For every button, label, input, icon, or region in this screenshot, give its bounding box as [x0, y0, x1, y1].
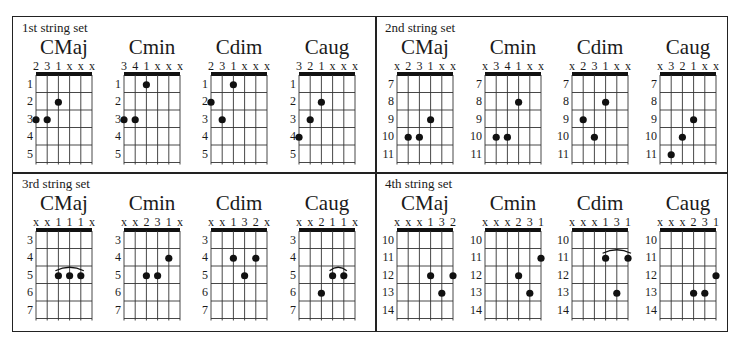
- chord-diagram-caug: Caugxx211x34567: [279, 191, 359, 331]
- nut-bar: [660, 72, 716, 76]
- finger-dot: [701, 290, 708, 297]
- finger-dot: [515, 272, 522, 279]
- chord-diagram-caug: Caugx321xx7891011: [640, 35, 720, 175]
- finger-dot: [679, 134, 686, 141]
- fretboard-grid: [479, 225, 547, 325]
- nut-bar: [299, 72, 355, 76]
- finger-dot: [449, 272, 456, 279]
- finger-dot: [438, 290, 445, 297]
- finger-dot: [219, 116, 226, 123]
- fretboard-grid: [654, 225, 722, 325]
- finger-dot: [230, 255, 237, 262]
- chord-diagram-cmaj: CMajxxx1321011121314: [377, 191, 457, 331]
- finger-dot: [207, 99, 214, 106]
- nut-bar: [124, 72, 180, 76]
- nut-bar: [36, 72, 92, 76]
- chord-diagram-cdim: Cdim231xxx12345: [191, 35, 271, 175]
- chord-diagram-cmin: Cmin341xxx12345: [104, 35, 184, 175]
- finger-dot: [602, 255, 609, 262]
- finger-dot: [591, 134, 598, 141]
- finger-dot: [526, 290, 533, 297]
- chord-name: Caug: [299, 191, 355, 216]
- finger-dot: [143, 81, 150, 88]
- finger-dot: [624, 255, 631, 262]
- chord-name: Cdim: [572, 191, 628, 216]
- nut-bar: [572, 72, 628, 76]
- finger-dot: [307, 116, 314, 123]
- nut-bar: [36, 228, 92, 232]
- fretboard-grid: [566, 69, 634, 169]
- panel-title: 4th string set: [385, 176, 452, 192]
- chord-diagram-cmin: Cminxx231x34567: [104, 191, 184, 331]
- chord-diagram-cmaj: CMajx231xx7891011: [377, 35, 457, 175]
- fretboard-grid: [293, 69, 361, 169]
- finger-dot: [154, 272, 161, 279]
- chord-name: Caug: [660, 191, 716, 216]
- chord-diagram-cmaj: CMajxx111x34567: [16, 191, 96, 331]
- finger-dot: [318, 99, 325, 106]
- fretboard-grid: [479, 69, 547, 169]
- chord-name: Cmin: [124, 191, 180, 216]
- chord-name: CMaj: [397, 35, 453, 60]
- chord-name: CMaj: [36, 35, 92, 60]
- finger-dot: [580, 116, 587, 123]
- finger-dot: [427, 272, 434, 279]
- fretboard-grid: [391, 69, 459, 169]
- nut-bar: [485, 72, 541, 76]
- finger-dot: [295, 134, 302, 141]
- chord-diagram-cmin: Cminxxx2311011121314: [465, 191, 545, 331]
- chord-name: Cmin: [124, 35, 180, 60]
- finger-dot: [416, 134, 423, 141]
- panel-title: 3rd string set: [22, 176, 90, 192]
- nut-bar: [397, 228, 453, 232]
- finger-dot: [668, 151, 675, 158]
- finger-dot: [318, 290, 325, 297]
- nut-bar: [660, 228, 716, 232]
- finger-dot: [143, 272, 150, 279]
- finger-dot: [340, 272, 347, 279]
- finger-dot: [690, 290, 697, 297]
- chord-name: Cdim: [211, 191, 267, 216]
- panel-title: 1st string set: [22, 20, 88, 36]
- finger-dot: [602, 99, 609, 106]
- fretboard-grid: [566, 225, 634, 325]
- finger-dot: [504, 134, 511, 141]
- chord-diagram-cmaj: CMaj231xxx12345: [16, 35, 96, 175]
- finger-dot: [613, 290, 620, 297]
- nut-bar: [397, 72, 453, 76]
- fretboard-grid: [654, 69, 722, 169]
- finger-dot: [165, 255, 172, 262]
- nut-bar: [485, 228, 541, 232]
- fretboard-grid: [118, 225, 186, 325]
- finger-dot: [252, 255, 259, 262]
- finger-dot: [515, 99, 522, 106]
- finger-dot: [230, 81, 237, 88]
- finger-dot: [66, 272, 73, 279]
- fretboard-grid: [205, 69, 273, 169]
- finger-dot: [405, 134, 412, 141]
- chord-name: Cdim: [572, 35, 628, 60]
- chord-name: CMaj: [397, 191, 453, 216]
- fretboard-grid: [293, 225, 361, 325]
- finger-dot: [537, 255, 544, 262]
- fretboard-grid: [205, 225, 273, 325]
- finger-dot: [55, 272, 62, 279]
- finger-dot: [690, 116, 697, 123]
- chord-name: Cmin: [485, 191, 541, 216]
- chord-name: Caug: [660, 35, 716, 60]
- fretboard-grid: [118, 69, 186, 169]
- nut-bar: [211, 72, 267, 76]
- finger-dot: [712, 272, 719, 279]
- finger-dot: [44, 116, 51, 123]
- finger-dot: [427, 116, 434, 123]
- nut-bar: [572, 228, 628, 232]
- chord-diagram-cdim: Cdimxx132x34567: [191, 191, 271, 331]
- panel-title: 2nd string set: [385, 20, 455, 36]
- nut-bar: [124, 228, 180, 232]
- finger-dot: [120, 116, 127, 123]
- finger-dot: [132, 116, 139, 123]
- chord-diagram-caug: Caugxxx2311011121314: [640, 191, 720, 331]
- chord-name: Cmin: [485, 35, 541, 60]
- chord-diagram-cmin: Cminx341xx7891011: [465, 35, 545, 175]
- finger-dot: [32, 116, 39, 123]
